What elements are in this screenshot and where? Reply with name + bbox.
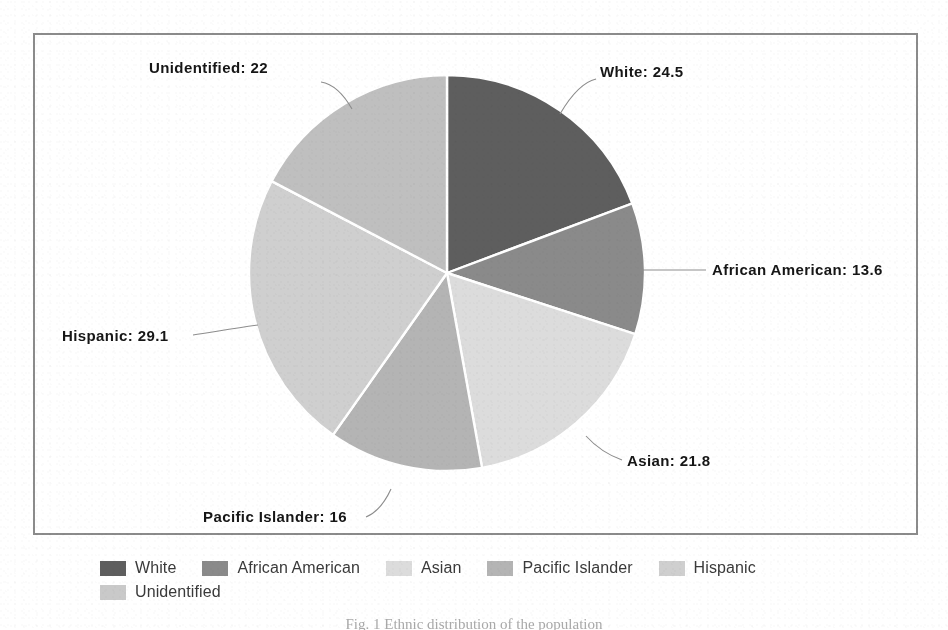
legend-swatch-icon [386, 561, 412, 576]
legend-item-pacific-islander[interactable]: Pacific Islander [487, 559, 632, 577]
legend-label: Unidentified [135, 583, 221, 601]
pie-svg [0, 0, 948, 630]
leader-line-white [560, 79, 596, 114]
leader-line-hispanic [193, 325, 258, 335]
legend-item-unidentified[interactable]: Unidentified [100, 583, 221, 601]
legend-label: African American [237, 559, 360, 577]
legend-swatch-icon [659, 561, 685, 576]
leader-line-asian [586, 436, 622, 460]
legend-swatch-icon [487, 561, 513, 576]
slice-label-unidentified: Unidentified: 22 [149, 59, 268, 76]
legend-row: WhiteAfrican AmericanAsianPacific Island… [100, 556, 900, 580]
slice-label-pacific-islander: Pacific Islander: 16 [203, 508, 347, 525]
legend-swatch-icon [100, 561, 126, 576]
legend-row: Unidentified [100, 580, 900, 604]
legend-label: Hispanic [694, 559, 756, 577]
legend-item-white[interactable]: White [100, 559, 176, 577]
pie-chart: Unidentified: 22 White: 24.5 African Ame… [0, 0, 948, 630]
figure-caption: Fig. 1 Ethnic distribution of the popula… [0, 616, 948, 630]
slice-label-white: White: 24.5 [600, 63, 684, 80]
chart-legend: WhiteAfrican AmericanAsianPacific Island… [100, 556, 900, 604]
legend-swatch-icon [100, 585, 126, 600]
legend-item-asian[interactable]: Asian [386, 559, 462, 577]
slice-label-hispanic: Hispanic: 29.1 [62, 327, 168, 344]
slice-label-african-american: African American: 13.6 [712, 261, 883, 278]
legend-label: Asian [421, 559, 462, 577]
legend-label: Pacific Islander [522, 559, 632, 577]
leader-line-pacific [366, 489, 391, 517]
slice-label-asian: Asian: 21.8 [627, 452, 711, 469]
legend-label: White [135, 559, 176, 577]
legend-item-african-american[interactable]: African American [202, 559, 360, 577]
pie-slice-group [249, 75, 645, 471]
legend-swatch-icon [202, 561, 228, 576]
legend-item-hispanic[interactable]: Hispanic [659, 559, 756, 577]
